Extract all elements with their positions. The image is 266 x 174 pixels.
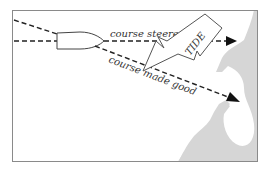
- course-steered-arrowhead: [226, 36, 237, 46]
- diagram-canvas: course steered course made good TIDE: [0, 0, 266, 174]
- wake-line-upper: [14, 20, 57, 34]
- tide-arrow: TIDE: [143, 14, 222, 71]
- course-made-good-arrowhead: [226, 92, 240, 102]
